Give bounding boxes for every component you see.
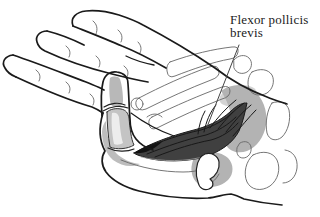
carpal-bone [266,102,289,140]
middle-finger-lower-edge [73,26,166,68]
palm-fold-line [121,160,203,172]
ring-metacarpal-bone [167,47,238,77]
finger-crease [36,70,40,81]
finger-crease [93,21,97,34]
second-finger-upper-edge [47,31,84,45]
carpal-bone [234,56,251,74]
index-finger-tip [3,55,16,77]
finger-crease [66,82,70,93]
finger-crease [118,30,122,42]
second-finger-outline [37,31,148,82]
index-finger-lower-edge [16,77,103,113]
finger-crease [96,56,100,67]
finger-crease [138,42,141,53]
carpal-bone [283,150,297,183]
finger-crease [90,94,94,105]
index-metacarpal-bone [136,66,219,110]
finger-crease [66,46,70,57]
index-finger-upper-edge [13,55,104,90]
muscle-label: Flexor pollicis brevis [230,13,318,39]
anatomical-figure: Flexor pollicis brevis [0,0,320,217]
thumb-distal-phalanx-bone [109,77,123,107]
ring-finger-tip-edge [126,56,154,65]
muscle-label-line2: brevis [230,26,318,39]
carpal-bone [245,152,279,189]
